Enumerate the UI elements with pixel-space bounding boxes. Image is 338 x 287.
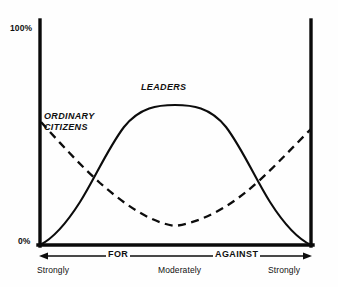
arrow-left-head: [39, 253, 48, 260]
axis-direction-label-against: AGAINST: [213, 250, 260, 259]
y-axis-max-label: 100%: [10, 24, 32, 33]
y-axis-min-label: 0%: [18, 237, 31, 246]
axis-category-label-strongly-right: Strongly: [268, 266, 300, 275]
axis-category-label-moderately: Moderately: [158, 266, 201, 275]
chart-canvas: [0, 0, 338, 287]
ordinary-citizens-curve: [41, 122, 311, 226]
ordinary-citizens-label-line2: CITIZENS: [44, 122, 88, 132]
series-label-ordinary-citizens: ORDINARY CITIZENS: [44, 111, 95, 132]
direction-arrow-axis: [39, 253, 312, 260]
axis-category-label-strongly-left: Strongly: [37, 266, 69, 275]
arrow-right-head: [303, 253, 312, 260]
chart-container: 100% 0% ORDINARY CITIZENS LEADERS FOR AG…: [0, 0, 338, 287]
ordinary-citizens-label-line1: ORDINARY: [44, 111, 95, 121]
series-label-leaders: LEADERS: [141, 83, 186, 92]
axis-direction-label-for: FOR: [106, 250, 130, 259]
